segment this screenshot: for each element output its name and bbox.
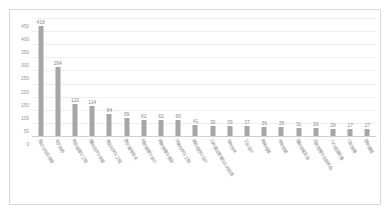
- y-axis-tick-label: 250: [21, 75, 29, 81]
- bar-value-label: 31: [296, 121, 301, 127]
- x-axis-slot: 旅游管理与服务: [152, 137, 169, 199]
- chart-frame: 050100150200250300350400450 418264122114…: [9, 9, 381, 205]
- bar[interactable]: [193, 125, 198, 136]
- x-axis-slot: 国际经济与贸易: [84, 137, 101, 199]
- y-axis-tick-label: 300: [21, 62, 29, 68]
- bar[interactable]: [210, 126, 215, 136]
- y-axis-tick-label: 0: [26, 141, 29, 147]
- x-axis-slot: 图书情报: [359, 137, 376, 199]
- x-axis-tick-label: 新闻传播: [260, 138, 272, 154]
- bar-value-label: 27: [365, 122, 370, 128]
- bar-slot: 35: [273, 18, 290, 136]
- bar-slot: 418: [32, 18, 49, 136]
- y-axis-tick-label: 100: [21, 115, 29, 121]
- bar[interactable]: [313, 128, 318, 136]
- bar-slot: 84: [101, 18, 118, 136]
- bar[interactable]: [141, 120, 146, 136]
- y-axis-tick-label: 50: [24, 128, 29, 134]
- plot-area: 4182641221148469626260413939373635312928…: [32, 18, 376, 136]
- bar[interactable]: [262, 127, 267, 136]
- bar-slot: 37: [238, 18, 255, 136]
- bar-value-label: 62: [158, 113, 163, 119]
- x-axis-slot: 生物技术: [221, 137, 238, 199]
- bar-value-label: 418: [37, 19, 45, 25]
- bar-slot: 28: [324, 18, 341, 136]
- bar-slot: 36: [256, 18, 273, 136]
- x-axis-slot: 环境科学与工程: [170, 137, 187, 199]
- bar-slot: 122: [66, 18, 83, 136]
- bar-value-label: 84: [107, 107, 112, 113]
- bar-value-label: 39: [210, 119, 215, 125]
- y-axis: 050100150200250300350400450: [10, 18, 32, 136]
- bar[interactable]: [124, 118, 129, 136]
- x-axis-tick-label: 行政管理: [346, 138, 358, 154]
- bar[interactable]: [107, 114, 112, 136]
- bar[interactable]: [227, 126, 232, 136]
- bar-value-label: 69: [124, 111, 129, 117]
- y-axis-tick-label: 350: [21, 49, 29, 55]
- x-axis-slot: 国际贸易实务: [290, 137, 307, 199]
- bar-slot: 69: [118, 18, 135, 136]
- bar-slot: 29: [307, 18, 324, 136]
- bar-value-label: 37: [244, 119, 249, 125]
- bar-value-label: 114: [88, 99, 96, 105]
- x-axis-slot: 数字媒体技术: [118, 137, 135, 199]
- bar[interactable]: [38, 26, 43, 136]
- x-axis-tick-label: 市场营销: [277, 138, 289, 154]
- bar-value-label: 35: [279, 120, 284, 126]
- bar[interactable]: [55, 67, 60, 136]
- x-axis-tick-label: 生物技术: [225, 138, 237, 154]
- x-axis-tick-label: 图书情报: [363, 138, 375, 154]
- bar-slot: 31: [290, 18, 307, 136]
- bar-slot: 62: [152, 18, 169, 136]
- x-axis-slot: 信息管理与信息系统: [307, 137, 324, 199]
- x-axis-tick-label: 工业设计: [243, 138, 255, 154]
- x-axis: 劳动与社会保障电子商务物流管理与工程国际经济与贸易食品科学与工程数字媒体技术财务…: [32, 137, 376, 199]
- y-axis-tick-label: 450: [21, 23, 29, 29]
- bar[interactable]: [90, 106, 95, 136]
- bar-value-label: 122: [71, 97, 79, 103]
- x-axis-slot: 物流管理与工程: [66, 137, 83, 199]
- x-axis-slot: 财务管理与会计: [135, 137, 152, 199]
- bar-value-label: 36: [262, 120, 267, 126]
- x-axis-slot: 食品科学与工程: [101, 137, 118, 199]
- y-axis-tick-label: 200: [21, 89, 29, 95]
- bar-value-label: 28: [330, 122, 335, 128]
- bar[interactable]: [244, 126, 249, 136]
- bar[interactable]: [176, 120, 181, 136]
- bar-slot: 264: [49, 18, 66, 136]
- bar[interactable]: [296, 128, 301, 136]
- bar-value-label: 29: [313, 121, 318, 127]
- bar-slot: 41: [187, 18, 204, 136]
- x-axis-slot: 公共事业管理与公共政策: [204, 137, 221, 199]
- bar-value-label: 264: [54, 60, 62, 66]
- x-axis-slot: 劳动与社会保障: [32, 137, 49, 199]
- x-axis-slot: 新闻传播: [256, 137, 273, 199]
- bar[interactable]: [279, 127, 284, 136]
- bar-slot: 114: [84, 18, 101, 136]
- y-axis-tick-label: 400: [21, 36, 29, 42]
- bars-series: 4182641221148469626260413939373635312928…: [32, 18, 376, 136]
- bar-slot: 27: [342, 18, 359, 136]
- bar-slot: 27: [359, 18, 376, 136]
- bar-value-label: 27: [348, 122, 353, 128]
- bar[interactable]: [365, 129, 370, 136]
- bar[interactable]: [348, 129, 353, 136]
- x-axis-tick-label: 电子商务: [53, 138, 65, 154]
- bar-slot: 62: [135, 18, 152, 136]
- x-axis-slot: 工业设计: [238, 137, 255, 199]
- bar-value-label: 60: [176, 113, 181, 119]
- x-axis-slot: 城市规划与设计: [187, 137, 204, 199]
- x-axis-slot: 电子商务: [49, 137, 66, 199]
- bar[interactable]: [158, 120, 163, 136]
- bar-value-label: 39: [227, 119, 232, 125]
- bar-slot: 39: [204, 18, 221, 136]
- bar-slot: 60: [170, 18, 187, 136]
- bar[interactable]: [330, 129, 335, 136]
- x-axis-slot: 行政管理: [342, 137, 359, 199]
- x-axis-slot: 市场营销: [273, 137, 290, 199]
- bar-slot: 39: [221, 18, 238, 136]
- bar-value-label: 62: [141, 113, 146, 119]
- bar-value-label: 41: [193, 118, 198, 124]
- bar[interactable]: [72, 104, 77, 136]
